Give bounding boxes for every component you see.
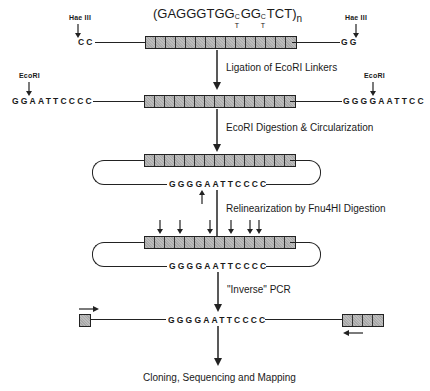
wobble-2-top: C bbox=[261, 13, 266, 20]
pcr-right-repeat bbox=[342, 314, 384, 327]
repeat-unit bbox=[255, 155, 265, 166]
repeat-unit bbox=[275, 155, 285, 166]
wobble-1-top: C bbox=[235, 13, 240, 20]
repeat-unit bbox=[195, 96, 205, 107]
repeat-unit bbox=[225, 96, 235, 107]
circle1-top-right-line bbox=[290, 160, 310, 161]
cut-arrow-icon bbox=[256, 220, 262, 234]
repeat-unit bbox=[145, 237, 155, 248]
wobble-2-bottom: T bbox=[261, 22, 265, 29]
forward-primer-arrow-icon bbox=[79, 306, 99, 312]
repeat-unit bbox=[195, 237, 205, 248]
repeat-unit bbox=[215, 237, 225, 248]
repeat-unit bbox=[175, 155, 185, 166]
repeat-unit bbox=[276, 37, 286, 48]
hae-iii-right-label: Hae III bbox=[345, 14, 367, 21]
step-inverse-pcr: "Inverse" PCR bbox=[227, 284, 291, 295]
repeat-unit bbox=[195, 155, 205, 166]
step5-arrow-icon bbox=[214, 326, 222, 366]
circle2-junction-seq: GGGGAATTCCCC bbox=[169, 261, 268, 271]
row1-right-end: GG bbox=[341, 37, 359, 47]
repeat-unit bbox=[175, 96, 185, 107]
repeat-unit bbox=[373, 315, 383, 326]
circle1-junction-seq: GGGGAATTCCCC bbox=[169, 179, 268, 189]
repeat-unit bbox=[236, 37, 246, 48]
title-prefix: (GAGGGTGG bbox=[153, 6, 235, 21]
repeat-unit bbox=[235, 237, 245, 248]
repeat-unit bbox=[225, 237, 235, 248]
repeat-unit bbox=[205, 237, 215, 248]
repeat-unit bbox=[245, 237, 255, 248]
repeat-unit bbox=[166, 37, 176, 48]
title-suffix: TCT) bbox=[267, 6, 297, 21]
step2-arrow-icon bbox=[213, 109, 221, 152]
cut-arrow-icon bbox=[228, 220, 234, 234]
repeat-unit bbox=[155, 237, 165, 248]
repeat-unit bbox=[245, 155, 255, 166]
circle1-up-arrow-icon bbox=[199, 190, 205, 204]
row2-right-seq: GGGGAATTCC bbox=[343, 96, 426, 106]
repeat-sequence-title: (GAGGGTGGCTGGCTTCT)n bbox=[153, 6, 302, 24]
repeat-unit bbox=[226, 37, 236, 48]
repeat-unit bbox=[275, 237, 285, 248]
repeat-unit bbox=[353, 315, 363, 326]
repeat-unit bbox=[363, 315, 373, 326]
circle2-left-loop bbox=[92, 242, 105, 267]
repeat-unit bbox=[235, 96, 245, 107]
repeat-unit bbox=[245, 96, 255, 107]
step-circularization: EcoRI Digestion & Circularization bbox=[226, 122, 373, 133]
wobble-1-bottom: T bbox=[235, 22, 239, 29]
repeat-unit bbox=[255, 237, 265, 248]
repeat-unit bbox=[215, 155, 225, 166]
repeat-unit bbox=[256, 37, 266, 48]
ecori-left-arrow-icon bbox=[26, 82, 32, 96]
pcr-junction-seq: GGGGAATTCCCC bbox=[168, 315, 267, 325]
row2-right-line bbox=[290, 101, 342, 102]
circle1-repeat-array bbox=[144, 154, 296, 167]
repeat-unit bbox=[235, 155, 245, 166]
repeat-unit bbox=[80, 315, 90, 326]
repeat-unit bbox=[216, 37, 226, 48]
reverse-primer-arrow-icon bbox=[343, 330, 363, 336]
repeat-unit bbox=[145, 96, 155, 107]
title-subscript: n bbox=[296, 13, 302, 24]
repeat-unit bbox=[185, 155, 195, 166]
repeat-unit bbox=[265, 237, 275, 248]
repeat-unit bbox=[196, 37, 206, 48]
repeat-unit bbox=[206, 37, 216, 48]
row2-left-line bbox=[93, 101, 145, 102]
cut-arrow-icon bbox=[247, 220, 253, 234]
repeat-unit bbox=[265, 155, 275, 166]
cut-arrow-icon bbox=[177, 220, 183, 234]
hae-iii-left-label: Hae III bbox=[69, 14, 91, 21]
repeat-unit bbox=[205, 96, 215, 107]
row1-right-line bbox=[292, 42, 340, 43]
row1-left-line bbox=[95, 42, 145, 43]
circle2-top-left-line bbox=[104, 242, 145, 243]
circle2-bottom-right-line bbox=[266, 266, 310, 267]
ecori-right-arrow-icon bbox=[370, 82, 376, 96]
repeat-unit bbox=[215, 96, 225, 107]
pcr-right-line bbox=[265, 319, 343, 320]
repeat-unit bbox=[155, 96, 165, 107]
row1-left-end: CC bbox=[78, 37, 95, 47]
cut-arrow-icon bbox=[207, 220, 213, 234]
step-relinearization: Relinearization by Fnu4HI Digestion bbox=[226, 203, 386, 214]
repeat-unit bbox=[186, 37, 196, 48]
repeat-unit bbox=[176, 37, 186, 48]
step-ligation: Ligation of EcoRI Linkers bbox=[226, 62, 337, 73]
circle2-bottom-left-line bbox=[104, 266, 167, 267]
row2-repeat-array bbox=[144, 95, 296, 108]
repeat-unit bbox=[165, 96, 175, 107]
pcr-left-repeat bbox=[79, 314, 91, 327]
repeat-unit bbox=[265, 96, 275, 107]
step-cloning: Cloning, Sequencing and Mapping bbox=[143, 372, 296, 383]
repeat-unit bbox=[175, 237, 185, 248]
repeat-unit bbox=[255, 96, 265, 107]
repeat-unit bbox=[155, 155, 165, 166]
circle1-right-loop bbox=[308, 160, 321, 185]
step1-arrow-icon bbox=[213, 50, 221, 90]
circle1-top-left-line bbox=[104, 160, 145, 161]
repeat-unit bbox=[275, 96, 285, 107]
step4-arrow-icon bbox=[214, 272, 222, 312]
